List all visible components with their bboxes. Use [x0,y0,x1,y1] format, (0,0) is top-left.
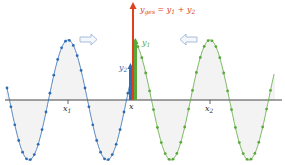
wave-plot [0,0,285,165]
sum-arrow-shaft [132,8,134,100]
x2-label: x2 [205,105,213,114]
y1-label: y1 [142,39,150,48]
sum-arrowhead [130,2,137,9]
x1-label: x1 [63,105,71,114]
left-direction-arrow-icon [180,34,197,45]
y2-bar [129,67,132,100]
right-direction-arrow-icon [80,34,97,45]
y1-bar [134,42,137,100]
sum-label: yges = y1 + y2 [140,6,195,15]
x-label: x [129,103,134,111]
y2-label: y2 [119,64,127,73]
wave-superposition-diagram: yges = y1 + y2 y1 y2 x x1 x2 [0,0,285,165]
